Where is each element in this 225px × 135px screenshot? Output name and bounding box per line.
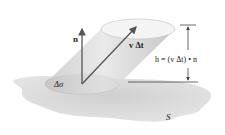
- surface-label: S: [166, 112, 171, 122]
- area-label: Δσ: [53, 79, 64, 89]
- flux-cylinder-diagram: n v Δt h = (v Δt) • n Δσ S: [0, 0, 225, 135]
- cylinder-top-cap: [101, 19, 175, 39]
- height-label: h = (v Δt) • n: [155, 55, 197, 64]
- velocity-label: v Δt: [129, 40, 144, 50]
- normal-label: n: [73, 34, 78, 44]
